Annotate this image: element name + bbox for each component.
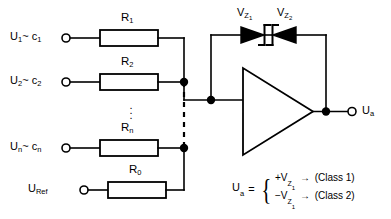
input-branch-n bbox=[62, 140, 184, 156]
ua-base: U bbox=[362, 104, 370, 116]
vz1-sub: Z1 bbox=[244, 11, 252, 20]
resistor-label-r0: R0 bbox=[129, 164, 141, 176]
terminal-ref bbox=[80, 186, 88, 194]
zener-label-vz2: VZ2 bbox=[277, 7, 292, 18]
terminal-in2 bbox=[62, 78, 70, 86]
vz2-sub-num: 2 bbox=[289, 15, 292, 21]
opamp-triangle bbox=[243, 68, 313, 155]
junction-node-rn bbox=[180, 144, 188, 152]
equation-lhs-sub: a bbox=[240, 189, 244, 198]
input-ref-u: U bbox=[28, 182, 36, 194]
junction-node-r2 bbox=[180, 78, 188, 86]
equation-line-2: −VZ1 → (Class 2) bbox=[275, 190, 355, 205]
vertical-ellipsis: . . . bbox=[124, 103, 138, 118]
vz1-sub-num: 1 bbox=[249, 15, 252, 21]
terminal-output-ua bbox=[348, 108, 356, 116]
equation-lhs-base: U bbox=[232, 181, 240, 193]
equation-brace: { bbox=[261, 175, 271, 202]
input-label-n: Un~ cn bbox=[10, 141, 41, 152]
output-equation: Ua = { +VZ1 → (Class 1) −VZ1 → (Class 2) bbox=[232, 172, 355, 206]
input-label-2: U2~ c2 bbox=[10, 75, 41, 86]
equation-line1-sub2: 1 bbox=[292, 185, 295, 191]
equation-line1-result: (Class 1) bbox=[315, 172, 355, 183]
ua-sub: a bbox=[370, 109, 374, 118]
resistor-r0-body bbox=[108, 182, 166, 198]
equation-line2-arrow: → bbox=[300, 190, 310, 201]
zener-diode-2-symbol bbox=[267, 25, 296, 45]
equation-line1-value: +V bbox=[275, 172, 288, 183]
resistor-r0-sub: 0 bbox=[137, 168, 141, 177]
resistor-r2-body bbox=[100, 74, 158, 90]
zener-label-vz1: VZ1 bbox=[237, 7, 252, 18]
input-2-c-sub: 2 bbox=[37, 79, 41, 88]
input-label-ref: URef bbox=[28, 183, 48, 194]
input-2-tilde: ~ bbox=[22, 74, 28, 86]
equation-line2-sub2: 1 bbox=[292, 204, 295, 210]
equation-equals: = bbox=[248, 183, 254, 195]
output-label-ua: Ua bbox=[362, 105, 374, 116]
resistor-label-r1: R1 bbox=[121, 12, 133, 24]
input-ref-u-sub: Ref bbox=[36, 187, 48, 196]
resistor-r1-sub: 1 bbox=[129, 16, 133, 25]
zener-diode-1-symbol bbox=[241, 25, 270, 45]
input-n-c-sub: n bbox=[37, 145, 41, 154]
input-1-c-sub: 1 bbox=[37, 35, 41, 44]
input-n-u-sub: n bbox=[18, 145, 22, 154]
resistor-rn-body bbox=[100, 140, 158, 156]
input-1-u-sub: 1 bbox=[18, 35, 22, 44]
equation-line2-result: (Class 2) bbox=[315, 190, 355, 201]
resistor-label-r2: R2 bbox=[121, 56, 133, 68]
input-2-u: U bbox=[10, 74, 18, 86]
resistor-r1-body bbox=[100, 30, 158, 46]
equation-line1-arrow: → bbox=[300, 172, 310, 183]
terminal-inn bbox=[62, 144, 70, 152]
input-2-u-sub: 2 bbox=[18, 79, 22, 88]
input-n-tilde: ~ bbox=[22, 140, 28, 152]
resistor-rn-sub: n bbox=[129, 126, 133, 135]
junction-node-output bbox=[322, 107, 330, 115]
input-1-tilde: ~ bbox=[22, 30, 28, 42]
equation-line-1: +VZ1 → (Class 1) bbox=[275, 172, 355, 187]
input-n-u: U bbox=[10, 140, 18, 152]
equation-lhs: Ua bbox=[232, 181, 244, 196]
equation-line2-value: −V bbox=[275, 190, 288, 201]
vz2-sub: Z2 bbox=[284, 11, 292, 20]
junction-node-inverting-input bbox=[207, 96, 215, 104]
circuit-diagram-figure: U1~ c1 U2~ c2 Un~ cn URef R1 R2 Rn R0 . … bbox=[0, 0, 391, 219]
input-label-1: U1~ c1 bbox=[10, 31, 41, 42]
terminal-in1 bbox=[62, 34, 70, 42]
resistor-r2-sub: 2 bbox=[129, 60, 133, 69]
resistor-label-rn: Rn bbox=[121, 122, 133, 134]
input-1-u: U bbox=[10, 30, 18, 42]
input-branch-2 bbox=[62, 74, 184, 90]
